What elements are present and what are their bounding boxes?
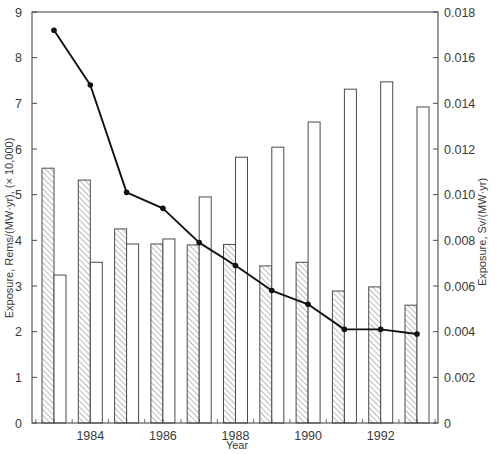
y-right-tick-label: 0.018 — [444, 6, 475, 20]
open-bar — [127, 244, 139, 423]
y-left-tick-label: 5 — [15, 188, 22, 202]
y-left-tick-label: 1 — [15, 371, 22, 385]
y-right-tick-label: 0.004 — [444, 325, 475, 339]
hatched-bar — [369, 287, 381, 423]
hatched-bar — [405, 305, 417, 423]
x-tick-label: 1988 — [222, 429, 250, 443]
y-left-tick-label: 8 — [15, 51, 22, 65]
bars-layer — [42, 82, 429, 423]
line-marker-dot — [305, 301, 311, 307]
y-right-tick-label: 0.008 — [444, 234, 475, 248]
y-right-tick-label: 0.006 — [444, 280, 475, 294]
x-tick-label: 1992 — [367, 429, 395, 443]
x-tick-label: 1984 — [76, 429, 104, 443]
hatched-bar — [115, 229, 127, 423]
line-marker-dot — [342, 327, 348, 333]
x-tick-label: 1990 — [294, 429, 322, 443]
line-marker-dot — [124, 190, 130, 196]
y-right-tick-label: 0.016 — [444, 51, 475, 65]
hatched-bar — [332, 291, 344, 423]
y-left-tick-label: 4 — [15, 234, 22, 248]
open-bar — [272, 147, 284, 423]
open-bar — [344, 89, 356, 423]
chart-container: Year Exposure, Rems/(MW·yr), (× 10,000) … — [0, 0, 495, 454]
y-left-tick-label: 6 — [15, 143, 22, 157]
open-bar — [308, 122, 320, 423]
line-marker-dot — [378, 327, 384, 333]
y-left-tick-label: 0 — [15, 417, 22, 431]
line-marker-dot — [160, 206, 166, 212]
open-bar — [163, 239, 175, 423]
line-marker-dot — [88, 82, 94, 88]
open-bar — [90, 262, 102, 423]
y-right-tick-label: 0.010 — [444, 188, 475, 202]
hatched-bar — [187, 245, 199, 423]
line-marker-dot — [51, 27, 57, 33]
open-bar — [236, 157, 248, 423]
y-axis-right-title: Exposure, Sv/(MW·yr) — [476, 178, 488, 286]
y-left-tick-label: 9 — [15, 6, 22, 20]
line-marker-dot — [233, 263, 239, 269]
y-right-tick-label: 0.002 — [444, 371, 475, 385]
hatched-bar — [151, 244, 163, 423]
line-marker-dot — [196, 240, 202, 246]
y-right-tick-label: 0.014 — [444, 97, 475, 111]
open-bar — [417, 107, 429, 423]
y-right-tick-label: 0.012 — [444, 143, 475, 157]
y-left-tick-label: 3 — [15, 280, 22, 294]
hatched-bar — [296, 262, 308, 423]
y-left-tick-label: 7 — [15, 97, 22, 111]
open-bar — [54, 275, 66, 423]
open-bar — [381, 82, 393, 423]
line-marker-dot — [269, 288, 275, 294]
open-bar — [199, 197, 211, 423]
hatched-bar — [78, 180, 90, 423]
y-right-tick-label: 0 — [444, 417, 451, 431]
hatched-bar — [42, 168, 54, 423]
y-axis-left-title: Exposure, Rems/(MW·yr), (× 10,000) — [3, 138, 15, 319]
x-tick-label: 1986 — [149, 429, 177, 443]
line-marker-dot — [414, 331, 420, 337]
hatched-bar — [224, 244, 236, 423]
dual-axis-bar-line-chart: Year Exposure, Rems/(MW·yr), (× 10,000) … — [0, 0, 495, 454]
y-left-tick-label: 2 — [15, 325, 22, 339]
